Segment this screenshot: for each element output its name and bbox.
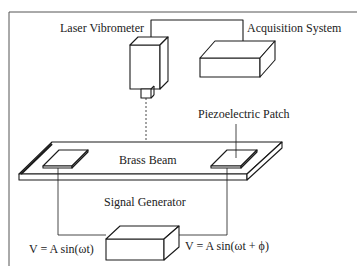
signal-generator-icon [106,226,179,260]
label-signal-generator: Signal Generator [104,196,186,208]
label-laser-vibrometer: Laser Vibrometer [60,22,144,34]
laser-vibrometer-icon [130,37,168,98]
acquisition-system-icon [200,41,275,77]
label-voltage-left: V = A sin(ωt) [29,243,94,255]
label-acquisition-system: Acquisition System [247,22,341,34]
label-brass-beam: Brass Beam [119,154,177,166]
figure-frame [9,12,357,266]
setup-diagram [0,0,357,266]
label-piezoelectric-patch: Piezoelectric Patch [198,108,290,120]
label-voltage-right: V = A sin(ωt + ϕ) [185,240,269,252]
